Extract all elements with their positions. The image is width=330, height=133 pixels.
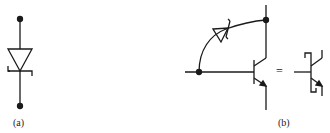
- terminal-dot-top: [18, 17, 23, 22]
- schottky-diode-symbol: [8, 19, 32, 106]
- panel-label-a: (a): [13, 117, 24, 128]
- terminal-dot-bottom: [18, 104, 23, 109]
- schottky-transistor-symbol: [294, 50, 322, 96]
- npn-transistor: [185, 5, 266, 110]
- panel-label-b: (b): [278, 117, 290, 128]
- equals-sign: =: [276, 64, 283, 79]
